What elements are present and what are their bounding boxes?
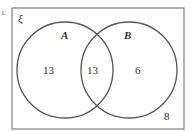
set-b-label: B [123,29,131,41]
a-only-value: 13 [43,64,55,76]
question-number: 1. [1,9,7,17]
outside-value: 8 [164,110,170,122]
universal-set-rectangle [12,8,184,129]
venn-diagram: 1. ξ A B 13 13 6 8 [0,0,192,132]
b-only-value: 6 [135,64,141,76]
set-a-label: A [60,29,68,41]
intersection-value: 13 [87,64,99,76]
universal-set-symbol: ξ [18,12,23,25]
